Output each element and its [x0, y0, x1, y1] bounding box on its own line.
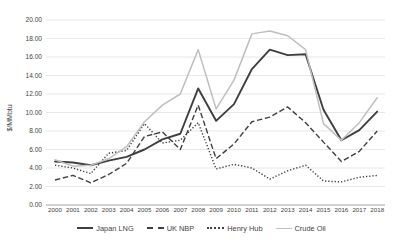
x-tick-label: 2012	[263, 206, 277, 213]
x-tick-label: 2004	[120, 206, 134, 213]
y-tick-label: 12.00	[25, 90, 42, 97]
x-tick-label: 2001	[66, 206, 80, 213]
x-axis-tick-labels: 2000200120022003200420052006200720082009…	[48, 206, 385, 213]
x-tick-label: 2009	[209, 206, 223, 213]
y-tick-label: 4.00	[29, 164, 42, 171]
legend-label-japan-lng: Japan LNG	[96, 224, 133, 233]
chart-canvas: 0.002.004.006.008.0010.0012.0014.0016.00…	[0, 0, 403, 242]
legend-label-crude-oil: Crude Oil	[295, 224, 326, 233]
y-tick-label: 6.00	[29, 146, 42, 153]
x-tick-label: 2015	[317, 206, 331, 213]
x-tick-label: 2014	[299, 206, 313, 213]
y-tick-label: 14.00	[25, 72, 42, 79]
x-tick-label: 2000	[48, 206, 62, 213]
legend-label-uk-nbp: UK NBP	[167, 224, 195, 233]
series-line-crude-oil	[55, 31, 377, 166]
x-tick-label: 2002	[84, 206, 98, 213]
y-gridlines	[46, 20, 385, 205]
x-tick-label: 2005	[138, 206, 152, 213]
x-tick-label: 2013	[281, 206, 295, 213]
x-tick-label: 2018	[370, 206, 384, 213]
price-line-chart: 0.002.004.006.008.0010.0012.0014.0016.00…	[0, 0, 403, 242]
legend-item-uk-nbp: UK NBP	[147, 224, 195, 233]
x-tick-label: 2016	[335, 206, 349, 213]
legend-item-henry-hub: Henry Hub	[207, 224, 262, 233]
y-tick-label: 10.00	[25, 109, 42, 116]
legend-label-henry-hub: Henry Hub	[227, 224, 262, 233]
uk-nbp-line-swatch	[147, 227, 164, 229]
legend-item-japan-lng: Japan LNG	[77, 224, 133, 233]
crude-oil-line-swatch	[276, 228, 292, 229]
legend-item-crude-oil: Crude Oil	[276, 224, 326, 233]
x-tick-label: 2007	[173, 206, 187, 213]
data-series	[55, 31, 377, 183]
y-axis-tick-labels: 0.002.004.006.008.0010.0012.0014.0016.00…	[25, 16, 42, 208]
japan-lng-line-swatch	[77, 227, 93, 229]
x-tick-label: 2010	[227, 206, 241, 213]
y-tick-label: 8.00	[29, 127, 42, 134]
y-tick-label: 2.00	[29, 183, 42, 190]
y-tick-label: 20.00	[25, 16, 42, 23]
x-tick-label: 2006	[156, 206, 170, 213]
y-tick-label: 18.00	[25, 35, 42, 42]
x-tick-label: 2017	[352, 206, 366, 213]
x-tick-label: 2011	[245, 206, 259, 213]
series-line-henry-hub	[55, 123, 377, 182]
henry-hub-line-swatch	[207, 227, 224, 229]
chart-legend: Japan LNG UK NBP Henry Hub Crude Oil	[0, 221, 403, 235]
x-tick-label: 2008	[191, 206, 205, 213]
y-axis-title: $/MMbtu	[6, 104, 13, 131]
y-tick-label: 0.00	[29, 201, 42, 208]
y-tick-label: 16.00	[25, 53, 42, 60]
x-tick-label: 2003	[102, 206, 116, 213]
series-line-uk-nbp	[55, 105, 377, 183]
